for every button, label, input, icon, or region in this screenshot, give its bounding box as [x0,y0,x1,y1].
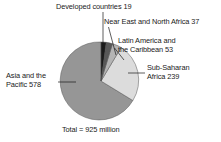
slice-label-developed-countries: Developed countries 19 [56,3,131,12]
slice-label-sub-saharan-africa-line2: Africa 239 [147,73,179,82]
pie-chart-figure: Developed countries 19 Near East and Nor… [0,0,221,142]
slice-label-near-east-north-africa: Near East and North Africa 37 [104,18,199,27]
slice-label-asia-and-the-pacific-line2: Pacific 578 [6,81,41,90]
slice-label-latin-america-caribbean-line2: the Caribbean 53 [118,46,173,55]
chart-total-label: Total = 925 million [62,126,119,135]
